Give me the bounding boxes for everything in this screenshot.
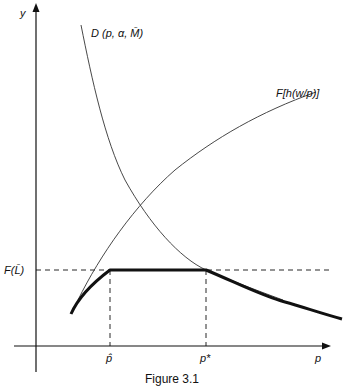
p-star-tick-label: p* [199, 352, 211, 364]
y-axis-label: y [19, 7, 27, 19]
p-hat-tick-label: p̂ [105, 352, 112, 364]
output-constraint-label: F(L̄) [4, 264, 25, 276]
y-axis-arrow-icon [33, 3, 40, 12]
demand-curve [81, 25, 283, 300]
effective-output-curve [71, 270, 342, 319]
demand-curve-label: D (p, α, M̄) [91, 27, 143, 39]
figure-caption: Figure 3.1 [145, 372, 199, 386]
diagram-canvas: y D (p, α, M̄) F[h(w/p)] F(L̄) p̂ p* p F… [0, 0, 347, 386]
production-curve-label: F[h(w/p)] [276, 87, 320, 99]
x-axis-arrow-icon [322, 343, 331, 350]
x-axis-label: p [314, 352, 321, 364]
